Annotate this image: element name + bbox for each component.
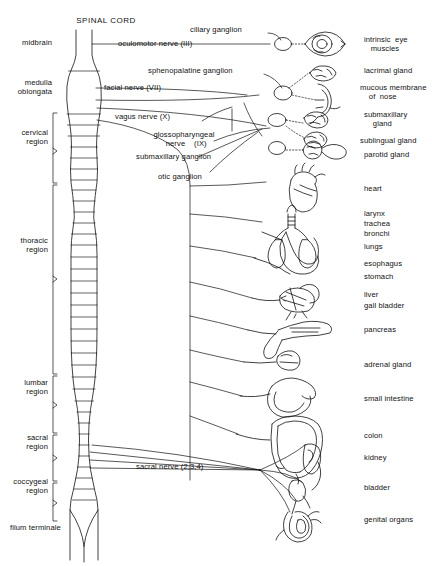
nerve-label-vagus: vagus nerve (X) [115, 112, 215, 121]
page-title: SPINAL CORD [60, 16, 152, 25]
organ-label-pancreas: pancreas [364, 325, 426, 334]
bladder-drawing [289, 480, 310, 514]
cranial-nerve-fibers [92, 33, 282, 480]
pancreas-drawing [248, 321, 332, 358]
cord-segment-lines [67, 71, 101, 500]
organ-label-colon: colon [364, 431, 424, 440]
eye-drawing [305, 32, 345, 56]
sublingual-gland-drawing [304, 132, 327, 148]
organ-label-lungs: lungs [364, 242, 424, 251]
region-label-coccygeal-region: coccygeal region [0, 477, 48, 495]
heart-drawing [289, 163, 325, 212]
organ-label-heart: heart [364, 184, 424, 193]
mucous-membrane-nose-drawing [310, 84, 340, 124]
ganglion-circles [268, 38, 292, 155]
region-label-medulla-oblongata: medulla oblongata [0, 78, 52, 96]
organ-label-gall-bladder: gall bladder [364, 301, 432, 310]
organ-label-adrenal-gland: adrenal gland [364, 360, 432, 369]
lacrimal-gland-drawing [310, 66, 336, 81]
nerve-label-sacral: sacral nerve (2,3,4) [136, 462, 248, 471]
region-brackets [53, 113, 57, 521]
organ-label-genital-organs: genital organs [364, 515, 432, 524]
parotid-gland-drawing [303, 141, 346, 159]
region-label-thoracic-region: thoracic region [0, 236, 48, 254]
region-label-midbrain: midbrain [0, 38, 52, 47]
organ-label-intrinsic-eye-muscles: intrinsic eye muscles [364, 35, 432, 53]
organ-label-bladder: bladder [364, 483, 424, 492]
organ-label-small-intestine: small intestine [364, 394, 432, 403]
organ-label-kidney: kidney [364, 453, 424, 462]
liver-gallbladder-drawing [252, 284, 319, 320]
ganglion-label-submaxillary: submaxillary ganglion [136, 152, 246, 161]
organ-label-liver: liver [364, 290, 424, 299]
organ-label-esophagus: esophagus [364, 259, 430, 268]
nerve-label-glossopharyngeal: glossopharyngeal nerve (IX) [132, 130, 236, 148]
region-label-filum-terminale: filum terminale [10, 523, 90, 532]
organ-label-lacrimal-gland: lacrimal gland [364, 66, 432, 75]
diagram-canvas: SPINAL CORD midbrain medulla oblongata c… [0, 0, 432, 566]
ganglion-label-otic: otic ganglion [158, 172, 238, 181]
adrenal-gland-drawing [244, 351, 300, 370]
submaxillary-gland-drawing [304, 112, 328, 128]
organ-label-parotid-gland: parotid gland [364, 150, 432, 159]
organ-label-stomach: stomach [364, 272, 426, 281]
organ-label-submaxillary-gland: submaxillary gland [364, 110, 432, 128]
organ-label-mucous-membrane-nose: mucous membrane of nose [360, 83, 432, 101]
nerve-label-oculomotor: oculomotor nerve (III) [118, 39, 236, 48]
organ-label-larynx: larynx [364, 209, 424, 218]
spinal-cord-outline [67, 30, 102, 560]
region-label-cervical-region: cervical region [0, 128, 48, 146]
ganglion-label-ciliary: ciliary ganglion [190, 25, 276, 34]
region-label-lumbar-region: lumbar region [0, 378, 48, 396]
organ-label-bronchi: bronchi [364, 229, 424, 238]
respiratory-drawing [262, 205, 316, 268]
ganglion-label-sphenopalatine: sphenopalatine ganglion [148, 66, 268, 75]
genital-organs-drawing [276, 512, 321, 543]
organ-label-trachea: trachea [364, 219, 424, 228]
filum-terminale-line [70, 510, 98, 562]
organ-label-sublingual-gland: sublingual gland [360, 136, 432, 145]
region-label-sacral-region: sacral region [0, 433, 48, 451]
small-intestine-drawing [240, 378, 316, 417]
nerve-label-facial: facial nerve (VII) [104, 83, 208, 92]
